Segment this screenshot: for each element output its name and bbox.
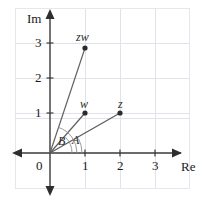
- origin-label: 0: [36, 159, 43, 172]
- point-z: [117, 110, 122, 115]
- data-points: [82, 45, 122, 115]
- tick-label-im-3: 3: [35, 36, 42, 49]
- imag-axis-label: Im: [27, 12, 41, 25]
- arrow-im-down: [46, 186, 55, 196]
- arrow-re-right: [172, 149, 182, 158]
- point-label-w: w: [80, 98, 88, 110]
- tick-label-im-1: 1: [35, 106, 42, 119]
- real-axis-label: Re: [181, 160, 195, 173]
- point-label-z: z: [118, 98, 123, 110]
- arrow-im-up: [46, 9, 55, 19]
- point-zw: [82, 45, 87, 50]
- grid-horizontal: [16, 44, 190, 119]
- angle-label-A: A: [72, 134, 79, 146]
- tick-label-re-2: 2: [117, 159, 124, 172]
- arrow-re-left: [12, 149, 22, 158]
- tick-label-im-2: 2: [35, 71, 42, 84]
- argand-diagram-figure: Im Re 0 1 2 3 1 2 3 w z zw A B: [0, 0, 205, 202]
- angle-label-B: B: [58, 135, 65, 147]
- tick-label-re-3: 3: [152, 159, 159, 172]
- point-label-zw: zw: [76, 31, 89, 43]
- point-w: [82, 110, 87, 115]
- plot-canvas: [0, 0, 205, 202]
- tick-label-re-1: 1: [82, 159, 89, 172]
